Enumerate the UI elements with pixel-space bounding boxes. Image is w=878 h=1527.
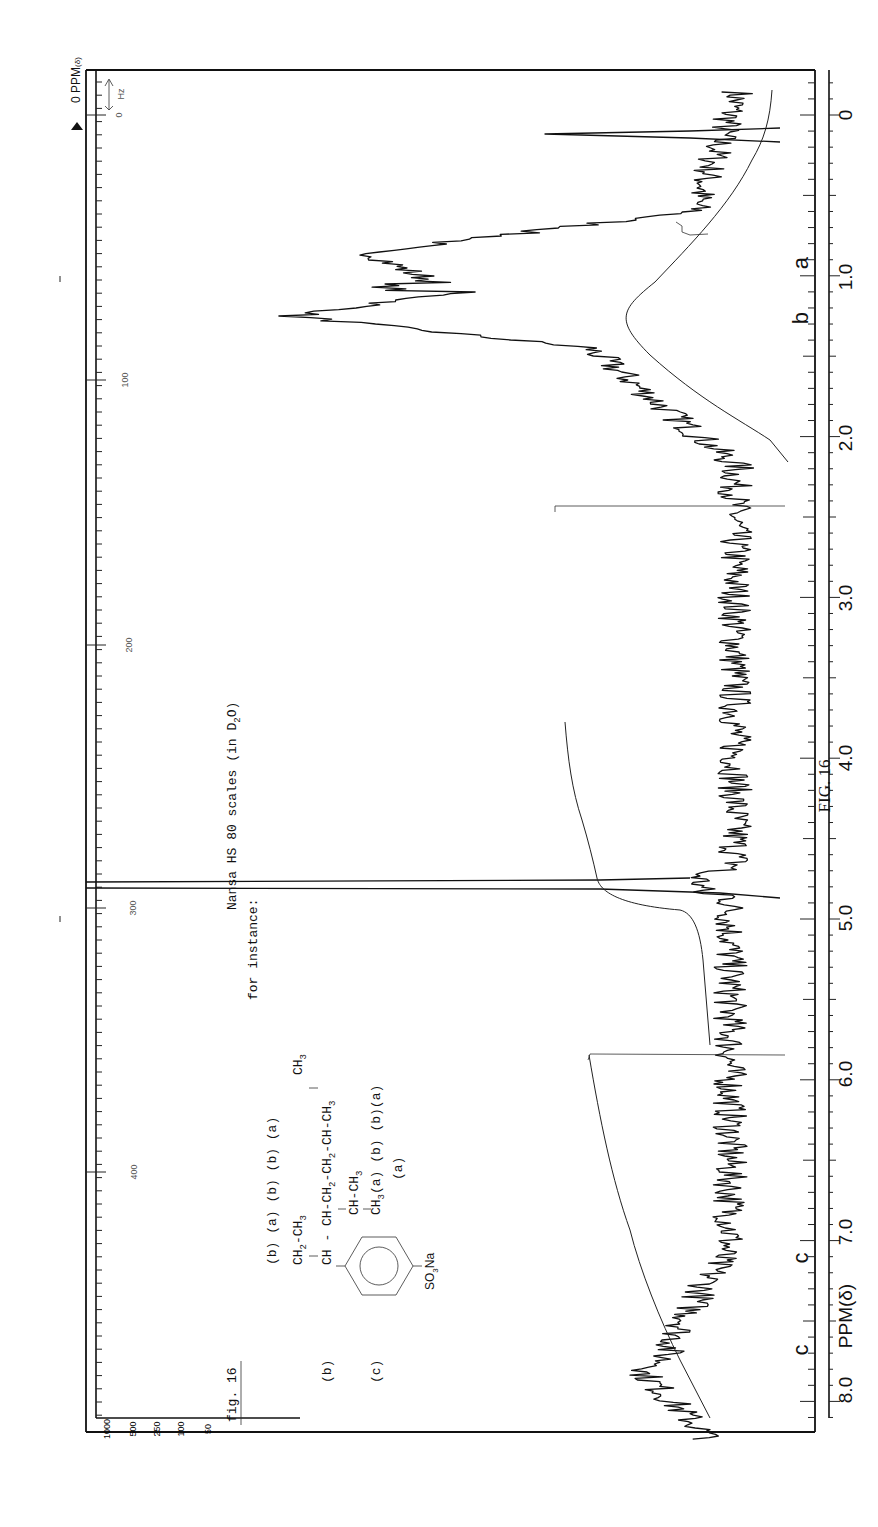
structure-methyl-top: CH3 bbox=[291, 1054, 309, 1075]
peak-label-c1: c bbox=[788, 1253, 813, 1264]
structure-line-4: CH3(a) (b) (b)(a) bbox=[369, 1085, 387, 1215]
peak-label-a: a bbox=[788, 256, 813, 269]
figure-caption: FIG. 16 bbox=[815, 760, 834, 813]
amp-label-50: 50 bbox=[203, 1424, 213, 1434]
inset-figure-label: fig. 16 bbox=[225, 1367, 240, 1422]
spectrum-trace bbox=[279, 92, 754, 1439]
ppm-label-5: 5.0 bbox=[835, 905, 856, 931]
amp-label-1000: 1000 bbox=[102, 1419, 112, 1439]
origin-ppm-label: PPM bbox=[69, 67, 83, 93]
sample-subtitle: for instance: bbox=[246, 899, 261, 1000]
structure-line-2: CH - CH-CH2-CH2-CH-CH3 bbox=[320, 1101, 338, 1265]
ppm-origin-marker: 0 PPM(δ) bbox=[69, 57, 83, 130]
ppm-label-0: 0 bbox=[835, 110, 856, 121]
benzene-ring-icon bbox=[336, 1237, 422, 1295]
amp-label-250: 250 bbox=[152, 1421, 162, 1436]
sample-title: Nansa HS 80 scales (in D2O) bbox=[225, 702, 243, 910]
amp-label-500: 500 bbox=[128, 1421, 138, 1436]
ppm-label-4: 4.0 bbox=[835, 745, 856, 771]
nmr-spectrum-figure: 0 100 200 300 400 Hz 1000 500 250 100 50… bbox=[0, 0, 878, 1527]
hz-label-300: 300 bbox=[128, 900, 138, 915]
hz-scale-labels: 0 100 200 300 400 Hz bbox=[105, 79, 139, 1180]
hz-unit-label: Hz bbox=[116, 88, 126, 99]
peak-label-b: b bbox=[788, 312, 813, 324]
ppm-label-1: 1.0 bbox=[835, 264, 856, 290]
hz-label-100: 100 bbox=[120, 372, 130, 387]
ppm-axis-title: PPM(δ) bbox=[835, 1284, 856, 1348]
origin-ppm-zero: 0 bbox=[69, 93, 83, 103]
structure-label-row: (b) (a) (b) (b) (a) bbox=[265, 1117, 280, 1265]
origin-ppm-unit: (δ) bbox=[73, 57, 82, 67]
ppm-axis bbox=[800, 70, 840, 1418]
hz-direction-arrow-icon bbox=[105, 79, 113, 110]
spectrum-spikes bbox=[86, 128, 785, 1060]
ppm-label-6: 6.0 bbox=[835, 1061, 856, 1087]
integral-curves bbox=[565, 90, 788, 1418]
svg-text:0 PPM(δ): 0 PPM(δ) bbox=[69, 57, 83, 103]
ppm-label-8: 8.0 bbox=[835, 1377, 856, 1403]
ppm-label-3: 3.0 bbox=[835, 585, 856, 611]
chemical-structure-legend: Nansa HS 80 scales (in D2O) for instance… bbox=[225, 702, 440, 1425]
hz-label-0: 0 bbox=[114, 112, 124, 117]
chart-frame bbox=[86, 70, 815, 1432]
structure-substituent: SO3Na bbox=[423, 1253, 440, 1290]
structure-line-3: CH-CH3 bbox=[347, 1171, 365, 1215]
amp-label-100: 100 bbox=[176, 1421, 186, 1436]
peak-label-c2: c bbox=[788, 1345, 813, 1356]
ppm-tick-labels: 0 1.0 2.0 3.0 4.0 5.0 6.0 7.0 8.0 PPM(δ) bbox=[835, 110, 856, 1404]
peak-assignment-labels: a b c c bbox=[788, 256, 813, 1355]
amplitude-scale-labels: 1000 500 250 100 50 bbox=[102, 1419, 213, 1439]
origin-triangle-icon bbox=[71, 122, 83, 130]
ppm-label-7: 7.0 bbox=[835, 1219, 856, 1245]
hz-label-200: 200 bbox=[124, 637, 134, 652]
structure-line-5: (a) bbox=[391, 1157, 406, 1180]
structure-side-label-c: (c) bbox=[369, 1360, 384, 1383]
structure-line-1: CH2-CH3 bbox=[291, 1215, 309, 1265]
ppm-label-2: 2.0 bbox=[835, 425, 856, 451]
hz-label-400: 400 bbox=[129, 1164, 139, 1179]
structure-side-label-b: (b) bbox=[320, 1360, 335, 1383]
